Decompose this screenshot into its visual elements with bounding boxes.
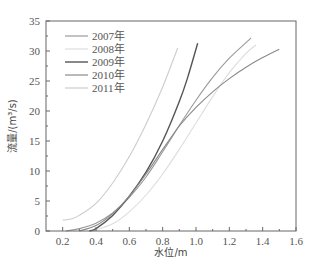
- y-tick-label: 0: [35, 225, 41, 237]
- legend-label: 2010年: [92, 68, 125, 81]
- legend-item-2010: 2010年: [65, 68, 125, 81]
- x-tick-label: 1.4: [256, 235, 270, 247]
- x-axis-label: 水位/m: [154, 246, 187, 258]
- plot-frame: [46, 21, 296, 231]
- x-tick-label: 0.2: [56, 235, 70, 247]
- legend-item-2009: 2009年: [65, 55, 125, 68]
- y-tick-label: 20: [29, 105, 41, 117]
- y-tick-label: 5: [35, 195, 41, 207]
- y-tick-label: 15: [29, 135, 41, 147]
- legend: 2007年 2008年 2009年 2010年 2011年: [65, 29, 125, 94]
- legend-label: 2009年: [92, 55, 125, 68]
- legend-label: 2007年: [92, 29, 125, 42]
- rating-curve-chart: 0.20.40.60.81.01.21.41.6 05101520253035 …: [0, 0, 316, 271]
- y-axis-label: 流量/(m³/s): [6, 99, 18, 153]
- x-tick-label: 1.0: [189, 235, 203, 247]
- x-tick-label: 1.6: [289, 235, 303, 247]
- legend-item-2008: 2008年: [65, 42, 125, 55]
- y-tick-label: 30: [29, 45, 41, 57]
- y-tick-label: 35: [29, 15, 41, 27]
- x-tick-label: 1.2: [222, 235, 236, 247]
- legend-label: 2011年: [92, 81, 125, 94]
- legend-item-2011: 2011年: [65, 81, 125, 94]
- y-axis: 05101520253035: [29, 15, 50, 237]
- legend-item-2007: 2007年: [65, 29, 125, 42]
- y-tick-label: 10: [29, 165, 41, 177]
- legend-label: 2008年: [92, 42, 125, 55]
- x-tick-label: 0.8: [156, 235, 170, 247]
- y-tick-label: 25: [29, 75, 41, 87]
- x-tick-label: 0.6: [122, 235, 136, 247]
- x-tick-label: 0.4: [89, 235, 103, 247]
